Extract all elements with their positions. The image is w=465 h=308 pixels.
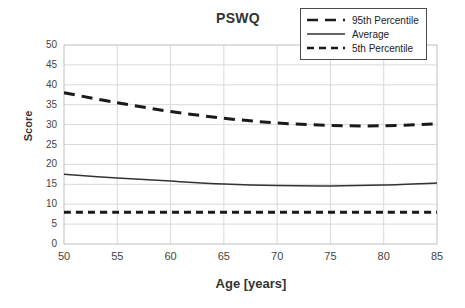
x-tick-75: 75: [315, 250, 345, 262]
y-tick-20: 20: [31, 158, 57, 169]
data-series-group: [64, 93, 437, 212]
y-tick-10: 10: [31, 198, 57, 209]
chart-legend: 95th Percentile Average 5th Percentile: [300, 8, 427, 60]
x-tick-85: 85: [422, 250, 452, 262]
y-tick-15: 15: [31, 178, 57, 189]
x-tick-50: 50: [49, 250, 79, 262]
x-tick-55: 55: [102, 250, 132, 262]
legend-swatch-dashed-long: [306, 14, 346, 26]
y-tick-25: 25: [31, 139, 57, 150]
legend-label-average: Average: [352, 29, 389, 40]
grid-lines: [64, 45, 437, 244]
legend-item-95th[interactable]: 95th Percentile: [306, 13, 419, 27]
legend-label-5th: 5th Percentile: [352, 43, 413, 54]
x-tick-60: 60: [156, 250, 186, 262]
legend-item-5th[interactable]: 5th Percentile: [306, 41, 419, 55]
y-tick-35: 35: [31, 99, 57, 110]
y-tick-0: 0: [31, 238, 57, 249]
x-tick-70: 70: [262, 250, 292, 262]
legend-item-average[interactable]: Average: [306, 27, 419, 41]
y-tick-30: 30: [31, 119, 57, 130]
legend-swatch-dashed-short: [306, 42, 346, 54]
x-tick-80: 80: [369, 250, 399, 262]
legend-label-95th: 95th Percentile: [352, 15, 419, 26]
chart-container: PSWQ Score Age [years] 05101520253035404…: [0, 0, 465, 308]
legend-swatch-solid: [306, 28, 346, 40]
y-tick-50: 50: [31, 39, 57, 50]
x-tick-65: 65: [209, 250, 239, 262]
y-tick-45: 45: [31, 59, 57, 70]
series-line-1: [64, 93, 437, 126]
y-tick-5: 5: [31, 218, 57, 229]
y-tick-40: 40: [31, 79, 57, 90]
